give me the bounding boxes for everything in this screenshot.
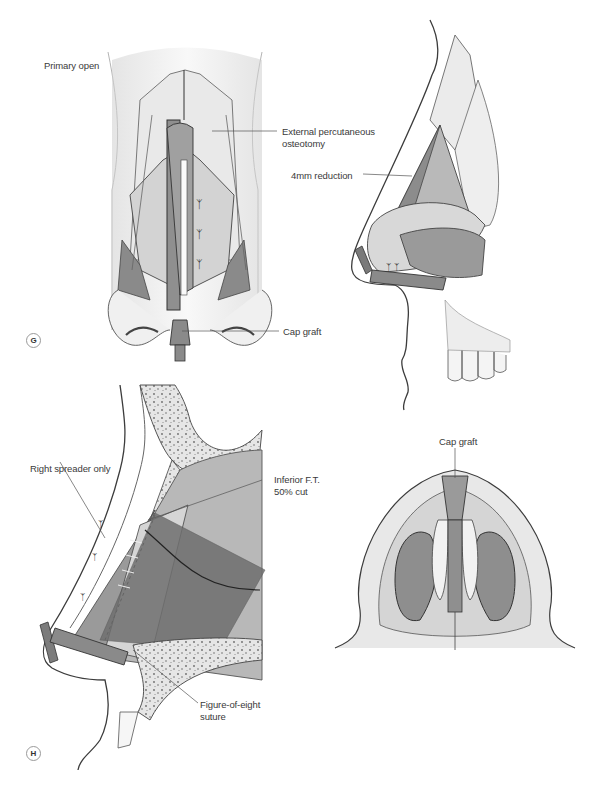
label-right-spreader-only: Right spreader only xyxy=(30,463,110,475)
panel-marker-g: G xyxy=(26,333,41,348)
panel-marker-h: H xyxy=(26,746,41,761)
figure-canvas: ᛉ ᛉ ᛉ ᛉ ᛉ xyxy=(0,0,603,786)
label-cap-graft-basal: Cap graft xyxy=(439,436,477,448)
panel-h-basal-illustration xyxy=(0,0,603,786)
label-cap-graft-frontal: Cap graft xyxy=(283,326,321,338)
label-external-percutaneous-osteotomy: External percutaneous osteotomy xyxy=(282,126,375,150)
label-4mm-reduction: 4mm reduction xyxy=(291,170,353,182)
label-inferior-ft-50-cut: Inferior F.T. 50% cut xyxy=(274,474,320,498)
label-primary-open: Primary open xyxy=(44,60,99,72)
label-figure-of-eight-suture: Figure-of-eight suture xyxy=(200,699,260,723)
